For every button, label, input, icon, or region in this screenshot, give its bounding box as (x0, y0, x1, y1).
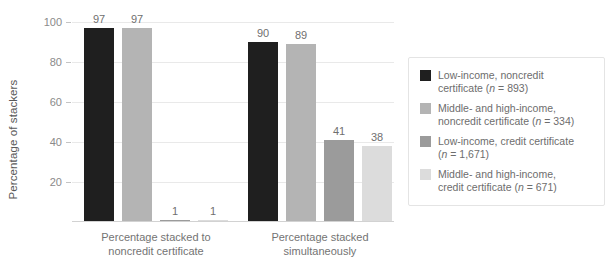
bar-value-label: 41 (333, 125, 345, 137)
bar: 97 (122, 28, 152, 222)
legend-label-line1: Middle- and high-income, (438, 102, 574, 115)
bar: 90 (248, 42, 278, 222)
bar-value-label: 1 (172, 205, 178, 217)
legend-item[interactable]: Middle- and high-income,noncredit certif… (420, 102, 594, 128)
legend-label-line1: Low-income, credit certificate (438, 135, 574, 148)
bar: 97 (84, 28, 114, 222)
y-tick-label-20: 20 (28, 176, 62, 188)
legend-swatch-icon (420, 169, 431, 180)
x-category-label: Percentage stacked tononcredit certifica… (66, 230, 246, 258)
legend-label-line1: Middle- and high-income, (438, 168, 557, 181)
y-tick-label-80: 80 (28, 56, 62, 68)
y-tick-label-60: 60 (28, 96, 62, 108)
legend-label-line2: credit certificate (n = 671) (438, 181, 557, 194)
x-category-label-line1: Percentage stacked (230, 230, 410, 244)
chart-legend: Low-income, noncreditcertificate (n = 89… (408, 57, 605, 206)
legend-label-line2: (n = 1,671) (438, 148, 574, 161)
legend-label-line2: noncredit certificate (n = 334) (438, 115, 574, 128)
bar-value-label: 97 (93, 13, 105, 25)
x-category-label: Percentage stackedsimultaneously (230, 230, 410, 258)
bar-value-label: 1 (210, 205, 216, 217)
y-tick-label-40: 40 (28, 136, 62, 148)
legend-label-line1: Low-income, noncredit (438, 69, 544, 82)
y-tick-mark-20 (66, 182, 71, 183)
y-tick-mark-100 (66, 22, 71, 23)
bar-value-label: 89 (295, 29, 307, 41)
legend-label: Middle- and high-income,noncredit certif… (438, 102, 574, 128)
x-category-label-line2: simultaneously (230, 244, 410, 258)
plot-area: 97971190894138 (72, 22, 394, 222)
y-tick-mark-80 (66, 62, 71, 63)
legend-item[interactable]: Low-income, credit certificate(n = 1,671… (420, 135, 594, 161)
legend-label: Middle- and high-income,credit certifica… (438, 168, 557, 194)
bar-value-label: 38 (371, 131, 383, 143)
y-tick-label-100: 100 (28, 16, 62, 28)
gridline-80 (72, 62, 394, 63)
y-axis-title: Percentage of stackers (0, 0, 26, 279)
legend-item[interactable]: Middle- and high-income,credit certifica… (420, 168, 594, 194)
legend-item[interactable]: Low-income, noncreditcertificate (n = 89… (420, 69, 594, 95)
x-category-label-line2: noncredit certificate (66, 244, 246, 258)
legend-label: Low-income, credit certificate(n = 1,671… (438, 135, 574, 161)
legend-swatch-icon (420, 136, 431, 147)
bar: 38 (362, 146, 392, 222)
bar-value-label: 97 (131, 13, 143, 25)
bar: 41 (324, 140, 354, 222)
legend-label: Low-income, noncreditcertificate (n = 89… (438, 69, 544, 95)
y-tick-mark-40 (66, 142, 71, 143)
bar-chart-figure: Percentage of stackers 97971190894138 10… (0, 0, 615, 279)
bar-value-label: 90 (257, 27, 269, 39)
legend-label-line2: certificate (n = 893) (438, 82, 544, 95)
gridline-60 (72, 102, 394, 103)
legend-swatch-icon (420, 70, 431, 81)
bar: 89 (286, 44, 316, 222)
gridline-100 (72, 22, 394, 23)
x-axis-baseline (72, 221, 394, 222)
y-tick-mark-60 (66, 102, 71, 103)
x-category-label-line1: Percentage stacked to (66, 230, 246, 244)
legend-swatch-icon (420, 103, 431, 114)
